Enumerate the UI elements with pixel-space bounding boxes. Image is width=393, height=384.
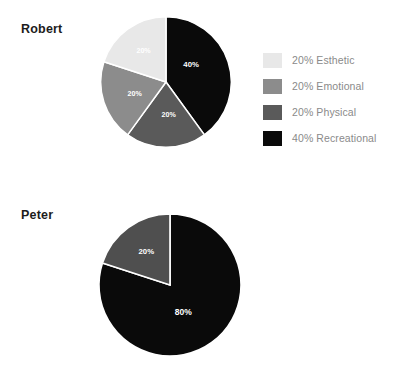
legend-swatch-physical [263, 105, 282, 120]
pie-slices-peter [99, 214, 241, 356]
chart-block-peter: Peter 80% 20% 20% Passionate 80% Physica… [0, 192, 393, 384]
legend-swatch-esthetic [263, 53, 282, 68]
legend-label-esthetic: 20% Esthetic [292, 54, 354, 66]
legend-swatch-recreational [263, 131, 282, 146]
legend-label-recreational: 40% Recreational [292, 132, 376, 144]
legend-label-physical: 20% Physical [292, 106, 356, 118]
pie-slice-label-physical-peter: 80% [175, 307, 192, 317]
legend-robert: 20% Esthetic 20% Emotional 20% Physical … [263, 47, 376, 151]
pie-slice-label-recreational: 40% [183, 60, 199, 69]
pie-slices-robert [101, 17, 232, 148]
pie-slice-label-emotional: 20% [128, 90, 143, 98]
legend-item-esthetic[interactable]: 20% Esthetic [263, 47, 376, 73]
legend-item-physical[interactable]: 20% Physical [263, 99, 376, 125]
pie-slice-label-passionate: 20% [139, 247, 155, 256]
chart-title-peter: Peter [21, 208, 53, 222]
legend-label-emotional: 20% Emotional [292, 80, 364, 92]
legend-item-recreational[interactable]: 40% Recreational [263, 125, 376, 151]
legend-swatch-emotional [263, 79, 282, 94]
chart-block-robert: Robert 40% 20% 20% 20% 20% Esthetic 20% … [0, 0, 393, 192]
pie-chart-peter: 80% 20% [96, 211, 244, 359]
pie-svg-peter: 80% 20% [96, 211, 244, 359]
pie-slice-label-esthetic: 20% [136, 47, 151, 55]
pie-slice-label-physical: 20% [162, 111, 177, 119]
pie-svg-robert: 40% 20% 20% 20% [98, 14, 234, 150]
chart-title-robert: Robert [21, 22, 62, 36]
pie-chart-robert: 40% 20% 20% 20% [98, 14, 234, 150]
legend-item-emotional[interactable]: 20% Emotional [263, 73, 376, 99]
